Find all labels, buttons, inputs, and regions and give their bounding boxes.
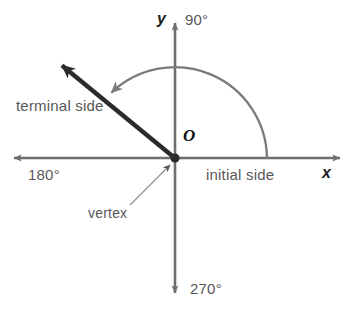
vertex-leader-line xyxy=(130,165,170,205)
angle-label-180: 180° xyxy=(28,166,60,183)
initial-side-label: initial side xyxy=(206,166,274,183)
terminal-side-label: terminal side xyxy=(16,96,126,116)
angle-label-90: 90° xyxy=(185,11,208,28)
angle-label-270: 270° xyxy=(190,280,222,297)
x-axis-label: x xyxy=(322,164,331,181)
angle-diagram-figure: y 90° x 180° 270° terminal side initial … xyxy=(0,0,353,318)
vertex-label: vertex xyxy=(88,205,127,222)
y-axis-label: y xyxy=(157,10,166,27)
vertex-point xyxy=(170,153,179,162)
origin-label: O xyxy=(183,127,195,144)
diagram-canvas xyxy=(0,0,353,318)
